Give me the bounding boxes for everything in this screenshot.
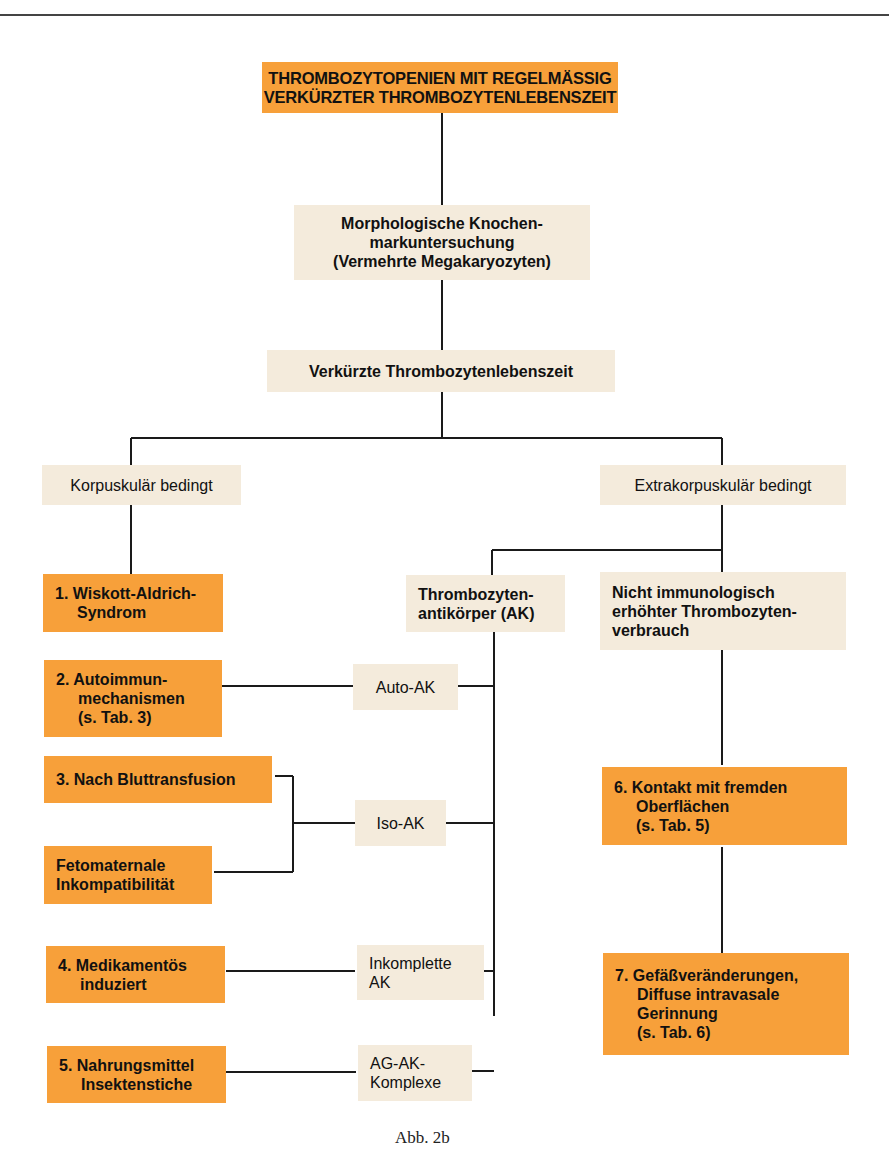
bone-marrow-node: Morphologische Knochen- markuntersuchung…	[294, 205, 590, 280]
complex-ak-label: AG-AK- Komplexe	[370, 1054, 441, 1092]
cause-4-node: 4. Medikamentös induziert	[46, 946, 225, 1003]
corpuscular-label: Korpuskulär bedingt	[70, 476, 212, 495]
cause-2-node: 2. Autoimmun- mechanismen (s. Tab. 3)	[44, 660, 222, 737]
cause-1-label: 1. Wiskott-Aldrich- Syndrom	[55, 584, 196, 622]
auto-ak-label: Auto-AK	[376, 678, 436, 697]
antibodies-label: Thrombozyten- antikörper (AK)	[418, 585, 534, 623]
root-node-label: THROMBOZYTOPENIEN MIT REGELMÄSSIG VERKÜR…	[264, 69, 617, 107]
cause-6-label: 6. Kontakt mit fremden Oberflächen (s. T…	[614, 778, 787, 835]
cause-7-label: 7. Gefäßveränderungen, Diffuse intravasa…	[615, 966, 802, 1042]
incomplete-ak-node: Inkomplette AK	[357, 945, 484, 1000]
iso-ak-node: Iso-AK	[355, 800, 446, 846]
fetomaternal-node: Fetomaternale Inkompatibilität	[44, 846, 212, 904]
non-immunological-label: Nicht immunologisch erhöhter Thrombozyte…	[612, 583, 797, 640]
cause-3-label: 3. Nach Bluttransfusion	[56, 770, 236, 789]
shortened-lifespan-node: Verkürzte Thrombozytenlebenszeit	[267, 350, 615, 392]
cause-5-label: 5. Nahrungsmittel Insektenstiche	[59, 1056, 198, 1094]
non-immunological-node: Nicht immunologisch erhöhter Thrombozyte…	[600, 572, 846, 650]
cause-1-node: 1. Wiskott-Aldrich- Syndrom	[43, 574, 223, 632]
cause-5-node: 5. Nahrungsmittel Insektenstiche	[47, 1046, 226, 1103]
incomplete-ak-label: Inkomplette AK	[369, 954, 452, 992]
cause-4-label: 4. Medikamentös induziert	[58, 956, 191, 994]
cause-6-node: 6. Kontakt mit fremden Oberflächen (s. T…	[602, 767, 847, 845]
cause-2-label: 2. Autoimmun- mechanismen (s. Tab. 3)	[56, 670, 185, 727]
auto-ak-node: Auto-AK	[353, 664, 458, 710]
extracorpuscular-label: Extrakorpuskulär bedingt	[635, 476, 812, 495]
complex-ak-node: AG-AK- Komplexe	[358, 1045, 472, 1101]
antibodies-node: Thrombozyten- antikörper (AK)	[406, 575, 565, 632]
root-node: THROMBOZYTOPENIEN MIT REGELMÄSSIG VERKÜR…	[262, 62, 618, 113]
figure-caption: Abb. 2b	[395, 1128, 450, 1148]
shortened-lifespan-label: Verkürzte Thrombozytenlebenszeit	[309, 362, 573, 381]
extracorpuscular-node: Extrakorpuskulär bedingt	[600, 465, 846, 505]
iso-ak-label: Iso-AK	[376, 814, 424, 833]
fetomaternal-label: Fetomaternale Inkompatibilität	[56, 856, 174, 894]
corpuscular-node: Korpuskulär bedingt	[42, 465, 241, 505]
cause-7-node: 7. Gefäßveränderungen, Diffuse intravasa…	[603, 953, 849, 1055]
cause-3-node: 3. Nach Bluttransfusion	[44, 756, 272, 803]
bone-marrow-label: Morphologische Knochen- markuntersuchung…	[333, 214, 551, 271]
